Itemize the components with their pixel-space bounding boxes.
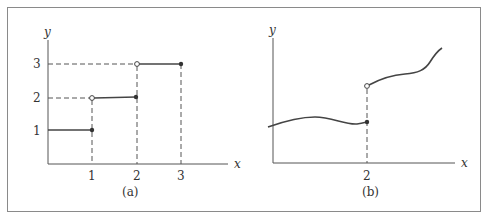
x-tick-3: 3 [177,169,185,183]
panel-a: x y 3 2 1 1 2 3 (a) [33,25,241,199]
guide-lines-a [48,64,181,164]
x-axis-label-a: x [234,157,241,171]
closed-dot-1 [90,128,94,132]
caption-a: (a) [122,185,139,199]
y-tick-3: 3 [33,57,41,71]
x-tick-1: 1 [88,169,96,183]
lower-curve [268,117,367,127]
closed-dot-b [365,120,369,124]
x-tick-2: 2 [133,169,141,183]
closed-dot-2 [134,95,138,99]
caption-b: (b) [362,185,379,199]
open-circle-b [365,84,370,89]
upper-curve [369,48,442,85]
open-circle-1 [90,96,95,101]
y-tick-1: 1 [33,124,41,138]
y-axis-label-b: y [268,23,276,37]
step-segments [48,64,181,130]
closed-dot-3 [179,62,183,66]
open-circle-2 [135,62,140,67]
y-axis-label-a: y [43,25,51,39]
x-tick-2-b: 2 [363,169,371,183]
figure-canvas: x y 3 2 1 1 2 3 (a) [0,0,489,221]
panel-b: x y 2 (b) [268,23,468,199]
y-tick-2: 2 [33,91,41,105]
x-axis-label-b: x [461,156,468,170]
